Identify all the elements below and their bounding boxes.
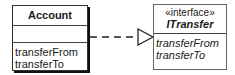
attribute-list: transferFrom transferTo [154,34,226,61]
attribute: transferFrom [156,37,226,49]
interface-name: ITransfer [154,18,226,34]
stereotype-label: «interface» [154,5,226,18]
attribute: transferTo [156,49,226,61]
interface-itransfer: «interface» ITransfer transferFrom trans… [153,4,227,70]
hollow-triangle-arrowhead-icon [138,29,153,45]
